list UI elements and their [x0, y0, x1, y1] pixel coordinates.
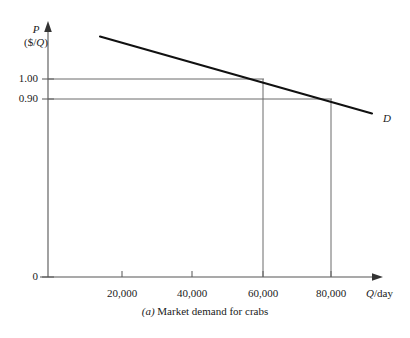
y-axis-title-line2: ($/Q)	[12, 36, 60, 49]
x-tick-label-60000: 60,000	[228, 288, 298, 299]
x-axis-title-quantity-symbol: Q	[366, 287, 374, 299]
y-axis-title-line1: P	[12, 23, 60, 36]
x-tick-label-40000: 40,000	[157, 288, 227, 299]
y-axis-title-suffix: )	[44, 36, 48, 48]
x-tick-label-20000: 20,000	[87, 288, 157, 299]
demand-curve-label: D	[383, 113, 391, 124]
x-axis-title: Q/day	[366, 288, 393, 299]
y-axis-title-prefix: ($/	[24, 36, 36, 48]
x-tick-label-80000: 80,000	[296, 288, 366, 299]
y-tick-label-0-90: 0.90	[2, 93, 38, 104]
y-axis-title: P ($/Q)	[12, 23, 60, 48]
figure-caption: (a) Market demand for crabs	[0, 305, 410, 317]
x-axis-title-unit: /day	[374, 287, 393, 299]
origin-label: 0	[2, 271, 38, 282]
demand-chart-figure: P ($/Q) 1.00 0.90 0 20,000 40,000 60,000…	[0, 0, 410, 338]
demand-curve	[100, 37, 372, 114]
figure-caption-index: (a)	[142, 305, 155, 317]
y-tick-label-1-00: 1.00	[2, 73, 38, 84]
figure-caption-text: Market demand for crabs	[157, 305, 268, 317]
x-axis-arrowhead	[372, 273, 383, 281]
